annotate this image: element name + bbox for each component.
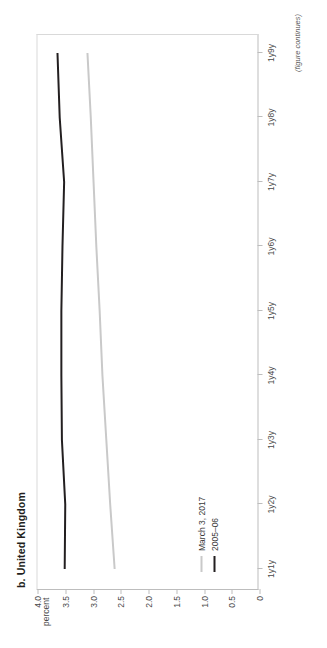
page-title: b. United Kingdom bbox=[14, 492, 26, 588]
x-axis-tick bbox=[257, 246, 262, 247]
x-axis-tick-label: 1y3y bbox=[265, 431, 275, 449]
y-axis-tick bbox=[204, 589, 205, 594]
x-axis-tick-label: 1y9y bbox=[265, 44, 275, 62]
figure: b. United Kingdom percent 4.03.53.02.52.… bbox=[0, 0, 327, 648]
plot-area: 4.03.53.02.52.01.51.00.501y1y1y2y1y3y1y4… bbox=[36, 34, 258, 590]
series-line bbox=[87, 53, 114, 569]
series-lines bbox=[37, 33, 259, 589]
legend: March 3, 20172005–06 bbox=[196, 497, 219, 572]
y-axis-tick bbox=[148, 589, 149, 594]
x-axis-tick bbox=[257, 52, 262, 53]
x-axis-tick-label: 1y2y bbox=[265, 496, 275, 514]
y-axis-tick-label: 2.0 bbox=[143, 596, 153, 608]
x-axis-tick bbox=[257, 310, 262, 311]
y-axis-tick bbox=[65, 589, 66, 594]
y-axis-tick bbox=[93, 589, 94, 594]
x-axis-tick bbox=[257, 375, 262, 376]
x-axis-tick-label: 1y6y bbox=[265, 238, 275, 256]
y-axis-tick-label: 0.5 bbox=[226, 596, 236, 608]
x-axis-tick bbox=[257, 181, 262, 182]
y-axis-tick bbox=[259, 589, 260, 594]
y-axis-tick bbox=[176, 589, 177, 594]
x-axis-tick-label: 1y4y bbox=[265, 367, 275, 385]
figure-continues-note: (figure continues) bbox=[292, 14, 301, 72]
x-axis-tick bbox=[257, 568, 262, 569]
legend-label: 2005–06 bbox=[209, 518, 219, 551]
legend-swatch-icon bbox=[200, 556, 202, 572]
x-axis-tick bbox=[257, 117, 262, 118]
y-axis-tick-label: 1.0 bbox=[199, 596, 209, 608]
y-axis-tick bbox=[231, 589, 232, 594]
y-axis-tick bbox=[37, 589, 38, 594]
x-axis-tick-label: 1y1y bbox=[265, 560, 275, 578]
x-axis-tick bbox=[257, 504, 262, 505]
y-axis-tick-label: 3.0 bbox=[88, 596, 98, 608]
y-axis-tick bbox=[120, 589, 121, 594]
y-axis-tick-label: 3.5 bbox=[60, 596, 70, 608]
x-axis-tick bbox=[257, 439, 262, 440]
legend-item: 2005–06 bbox=[209, 497, 219, 572]
y-axis-tick-label: 1.5 bbox=[171, 596, 181, 608]
x-axis-tick-label: 1y7y bbox=[265, 173, 275, 191]
y-axis-tick-label: 4.0 bbox=[32, 596, 42, 608]
legend-item: March 3, 2017 bbox=[196, 497, 206, 572]
x-axis-tick-label: 1y8y bbox=[265, 109, 275, 127]
series-line bbox=[57, 53, 65, 569]
legend-swatch-icon bbox=[213, 556, 215, 572]
y-axis-tick-label: 2.5 bbox=[115, 596, 125, 608]
y-axis-tick-label: 0 bbox=[254, 596, 264, 601]
legend-label: March 3, 2017 bbox=[196, 497, 206, 551]
x-axis-tick-label: 1y5y bbox=[265, 302, 275, 320]
rotated-figure-container: b. United Kingdom percent 4.03.53.02.52.… bbox=[0, 0, 327, 648]
